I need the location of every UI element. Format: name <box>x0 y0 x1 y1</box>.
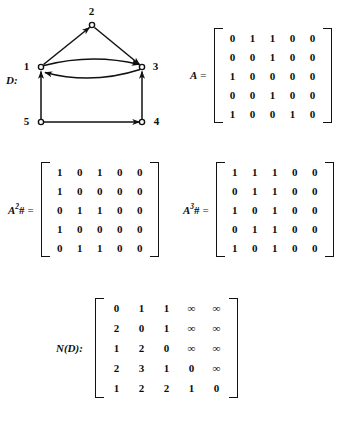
cell: 0 <box>303 47 323 66</box>
cell: 0 <box>283 47 303 66</box>
matrix-row: 1 0 1 0 0 <box>225 200 325 219</box>
matrix-row: 1 0 0 0 0 <box>223 66 323 85</box>
cell: 0 <box>225 181 245 200</box>
cell: 0 <box>70 181 90 200</box>
cell: 1 <box>225 162 245 181</box>
node-label-5: 5 <box>22 116 31 127</box>
cell: 1 <box>154 298 179 318</box>
cell: 0 <box>90 219 110 238</box>
bracket-left-icon <box>216 162 225 257</box>
cell: 1 <box>225 238 245 257</box>
cell: 0 <box>245 200 265 219</box>
matrix-A3-label: A3#= <box>183 203 209 216</box>
matrix-row: 1 0 0 0 0 <box>50 219 150 238</box>
bracket-left-icon <box>214 28 223 123</box>
cell: 1 <box>70 238 90 257</box>
cell: 0 <box>243 104 263 123</box>
cell: 1 <box>245 219 265 238</box>
node-5 <box>38 119 43 124</box>
bracket-right-icon <box>323 28 332 123</box>
cell: 2 <box>129 378 154 398</box>
cell: 0 <box>243 66 263 85</box>
matrix-A3-block: A3#= 1 1 1 0 0 0 1 1 <box>183 162 334 257</box>
cell: 0 <box>245 238 265 257</box>
cell: 1 <box>265 238 285 257</box>
cell: 0 <box>223 28 243 47</box>
cell: 0 <box>283 28 303 47</box>
node-label-4: 4 <box>152 116 161 127</box>
cell: 1 <box>90 200 110 219</box>
matrix-ND: 0 1 1 ∞ ∞ 2 0 1 ∞ ∞ 1 2 <box>95 298 238 398</box>
cell: ∞ <box>179 298 204 318</box>
cell: 0 <box>305 238 325 257</box>
cell: 2 <box>104 318 129 338</box>
cell: 0 <box>303 66 323 85</box>
matrix-row: 0 1 1 0 0 <box>225 219 325 238</box>
cell: 0 <box>303 104 323 123</box>
matrix-A-block: A= 0 1 1 0 0 0 0 1 <box>190 28 332 123</box>
cell: 0 <box>70 219 90 238</box>
cell: 0 <box>110 200 130 219</box>
cell: 0 <box>243 47 263 66</box>
cell: 0 <box>225 219 245 238</box>
node-1 <box>38 64 43 69</box>
cell: 2 <box>129 338 154 358</box>
cell: 1 <box>225 200 245 219</box>
matrix-A2: 1 0 1 0 0 1 0 0 0 0 0 1 <box>41 162 159 257</box>
cell: 1 <box>223 66 243 85</box>
cell: 0 <box>129 318 154 338</box>
cell: 0 <box>305 200 325 219</box>
cell: 0 <box>283 85 303 104</box>
matrix-A-table: 0 1 1 0 0 0 0 1 0 0 1 0 <box>223 28 323 123</box>
cell: 0 <box>283 66 303 85</box>
cell: 1 <box>265 181 285 200</box>
cell: ∞ <box>204 298 229 318</box>
matrix-A2-table: 1 0 1 0 0 1 0 0 0 0 0 1 <box>50 162 150 257</box>
cell: 1 <box>154 318 179 338</box>
cell: 3 <box>129 358 154 378</box>
cell: 0 <box>285 162 305 181</box>
cell: 0 <box>179 358 204 378</box>
cell: 1 <box>245 162 265 181</box>
matrix-A2-block: A2#= 1 0 1 0 0 1 0 0 <box>8 162 159 257</box>
matrix-row: 2 3 1 0 ∞ <box>104 358 229 378</box>
matrix-row: 1 1 1 0 0 <box>225 162 325 181</box>
matrix-A2-label: A2#= <box>8 203 34 216</box>
cell: ∞ <box>204 318 229 338</box>
cell: 0 <box>204 378 229 398</box>
edge-3-1 <box>45 70 140 79</box>
cell: 0 <box>130 200 150 219</box>
matrix-row: 1 2 2 1 0 <box>104 378 229 398</box>
cell: 2 <box>104 358 129 378</box>
cell: 0 <box>130 219 150 238</box>
matrix-row: 1 0 1 0 0 <box>225 238 325 257</box>
cell: 1 <box>50 219 70 238</box>
matrix-ND-label: N(D): <box>56 343 83 354</box>
cell: 0 <box>104 298 129 318</box>
node-label-3: 3 <box>151 61 160 72</box>
bracket-right-icon <box>229 298 238 398</box>
cell: 1 <box>104 378 129 398</box>
matrix-A3-table: 1 1 1 0 0 0 1 1 0 0 1 0 <box>225 162 325 257</box>
cell: ∞ <box>204 358 229 378</box>
matrix-row: 0 1 1 0 0 <box>225 181 325 200</box>
cell: 1 <box>265 162 285 181</box>
node-3 <box>139 64 144 69</box>
matrix-row: 0 1 1 0 0 <box>50 238 150 257</box>
cell: 0 <box>305 181 325 200</box>
matrix-ND-table: 0 1 1 ∞ ∞ 2 0 1 ∞ ∞ 1 2 <box>104 298 229 398</box>
cell: 0 <box>130 181 150 200</box>
cell: ∞ <box>179 338 204 358</box>
cell: 1 <box>70 200 90 219</box>
cell: 0 <box>305 162 325 181</box>
cell: 0 <box>223 85 243 104</box>
cell: 0 <box>285 219 305 238</box>
cell: 1 <box>265 200 285 219</box>
cell: 0 <box>50 238 70 257</box>
cell: 0 <box>263 104 283 123</box>
cell: 0 <box>50 200 70 219</box>
figure-canvas: D: 1 2 3 4 5 A= 0 1 1 0 0 <box>0 0 337 422</box>
cell: 1 <box>265 219 285 238</box>
cell: 0 <box>90 181 110 200</box>
cell: 0 <box>303 28 323 47</box>
